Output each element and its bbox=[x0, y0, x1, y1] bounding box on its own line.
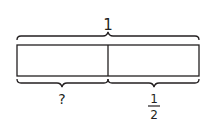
part1-label: ? bbox=[58, 91, 65, 107]
part2-denominator: 2 bbox=[150, 108, 158, 122]
tape-diagram: 1 ? 1 2 bbox=[0, 0, 215, 134]
part2-numerator: 1 bbox=[150, 92, 158, 106]
part1-brace bbox=[17, 79, 108, 87]
whole-label: 1 bbox=[103, 16, 113, 34]
part2-brace bbox=[108, 79, 199, 87]
